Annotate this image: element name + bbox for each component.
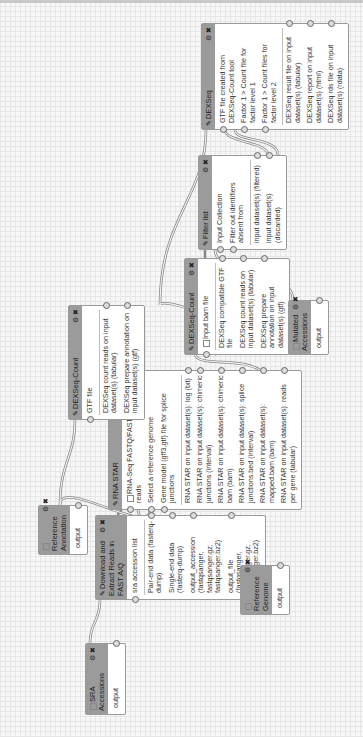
close-icon[interactable]: ✖ [71,309,80,315]
output-terminal[interactable] [328,20,335,27]
output-row: DEXSeq compatible GTF file [215,263,237,350]
gear-icon[interactable]: ⚙ [187,270,196,276]
wrench-icon: ✎ [202,240,209,246]
close-icon[interactable]: ✖ [204,27,213,33]
input-terminal[interactable] [132,596,139,603]
output-terminal[interactable] [316,297,323,304]
input-row: Gene model (gff3,gtf) file for splice ju… [158,375,179,505]
output-row: Single-end data (fasterq-dump) [166,520,187,595]
output-terminal[interactable] [190,512,197,519]
input-terminal[interactable] [217,246,224,253]
output-row: DEXSeq result file on input dataset(s) (… [282,28,304,125]
close-icon[interactable]: ✖ [88,647,97,653]
node-header[interactable]: ✎DEXSeq-Count ⚙✖ [69,306,82,419]
gear-icon[interactable]: ⚙ [41,506,50,512]
output-terminal[interactable] [286,20,293,27]
output-terminal[interactable] [75,502,82,509]
gear-icon[interactable]: ⚙ [88,655,97,661]
node-dexseq-count-left[interactable]: ✎DEXSeq-Count ⚙✖ GTF file DEXSeq count r… [68,305,145,420]
gear-icon[interactable]: ⚙ [243,567,252,573]
gear-icon[interactable]: ⚙ [291,304,300,310]
output-terminal[interactable] [281,367,288,374]
node-header[interactable]: ✎Filter list ⚙✖ [199,156,212,249]
node-header[interactable]: ✎DEXSeq-Count ⚙✖ [185,259,198,354]
wrench-icon: ✎ [99,590,106,596]
input-terminal[interactable] [220,126,227,133]
output-terminal[interactable] [240,255,247,262]
node-dexseq[interactable]: ✎DEXSeq ⚙✖ GTF file created from DEXSeq-… [201,23,349,130]
input-terminal[interactable] [262,126,269,133]
input-terminal[interactable] [241,126,248,133]
input-icon [293,343,300,350]
output-terminal[interactable] [254,152,261,159]
output-terminal[interactable] [197,367,204,374]
node-reference-annotation[interactable]: Reference Annotation ⚙✖ output [38,505,88,555]
output-row: DEXSeq report on input dataset(s) (html) [304,28,325,125]
input-row: sra accession list [129,520,142,595]
input-row: Factor 1 > Count files for factor level … [259,28,280,125]
output-row: RNA STAR on input dataset(s): mapped.bam… [257,375,278,505]
output-terminal[interactable] [260,367,267,374]
close-icon[interactable]: ✖ [98,519,107,525]
input-terminal[interactable] [148,506,155,513]
gear-icon[interactable]: ⚙ [98,527,107,533]
output-row: output [274,570,287,610]
close-icon[interactable]: ✖ [41,498,50,504]
output-row: output [72,510,85,550]
gear-icon[interactable]: ⚙ [71,317,80,323]
close-icon[interactable]: ✖ [243,559,252,565]
node-header[interactable]: Reference Genome ⚙✖ [241,566,272,614]
node-header[interactable]: ✎Download and Extract Reads in FAST A/Q … [96,516,127,599]
output-terminal[interactable] [148,512,155,519]
checkbox-icon[interactable] [203,340,210,347]
output-row: DEXSeq rds file on input dataset(s) (rda… [325,28,346,125]
input-row: Factor 1 > Count file for factor level 1 [238,28,259,125]
node-dexseq-count-right[interactable]: ✎DEXSeq-Count ⚙✖ Input bam file DEXSeq c… [184,258,290,355]
wrench-icon: ✎ [188,345,195,351]
output-row: DEXSeq count reads on input dataset(s) (… [99,310,121,415]
output-row: DEXSeq prepare annotation on input datas… [121,310,142,415]
node-header[interactable]: Reference Annotation ⚙✖ [39,506,70,554]
input-terminal[interactable] [203,351,210,358]
output-terminal[interactable] [307,20,314,27]
output-row: RNA STAR on input dataset(s): chimeric b… [215,375,236,505]
output-terminal[interactable] [113,640,120,647]
output-terminal[interactable] [103,302,110,309]
output-terminal[interactable] [219,255,226,262]
input-terminal[interactable] [87,416,94,423]
wrench-icon: ✎ [205,120,212,126]
output-terminal[interactable] [239,367,246,374]
workflow-canvas[interactable]: SRA Accessions ⚙✖ output Reference Annot… [0,0,363,737]
output-terminal[interactable] [277,562,284,569]
input-row: Filter out identifiers absent from [227,160,248,245]
output-terminal[interactable] [185,367,192,374]
input-terminal[interactable] [230,246,237,253]
node-header[interactable]: Mutated Accessions ⚙✖ [289,301,311,354]
close-icon[interactable]: ✖ [201,159,210,165]
node-sra-accessions[interactable]: SRA Accessions ⚙✖ output [85,643,126,715]
workflow-editor: SRA Accessions ⚙✖ output Reference Annot… [0,0,363,737]
input-icon [245,603,252,610]
gear-icon[interactable]: ⚙ [204,35,213,41]
node-header[interactable]: SRA Accessions ⚙✖ [86,644,108,714]
output-row: RNA STAR on input dataset(s): splice jun… [236,375,257,505]
node-header[interactable]: ✎DEXSeq ⚙✖ [202,24,215,129]
wrench-icon: ✎ [112,500,119,506]
output-terminal[interactable] [169,512,176,519]
output-terminal[interactable] [124,302,131,309]
node-reference-genome[interactable]: Reference Genome ⚙✖ output [240,565,290,615]
gear-icon[interactable]: ⚙ [201,167,210,173]
output-row: RNA STAR on input dataset(s): reads per … [278,375,299,505]
input-terminal[interactable] [161,506,168,513]
close-icon[interactable]: ✖ [291,296,300,302]
input-terminal[interactable] [127,506,134,513]
node-filter-list[interactable]: ✎Filter list ⚙✖ Input Collection Filter … [198,155,287,250]
output-row: output_accession (fastqsanger, fastqsang… [187,520,225,595]
node-mutated-accessions[interactable]: Mutated Accessions ⚙✖ output [288,300,329,355]
output-terminal[interactable] [228,512,235,519]
output-terminal[interactable] [218,367,225,374]
output-terminal[interactable] [266,152,273,159]
close-icon[interactable]: ✖ [187,262,196,268]
output-terminal[interactable] [261,255,268,262]
output-row: RNA STAR on input dataset(s): log (txt) [181,375,195,505]
